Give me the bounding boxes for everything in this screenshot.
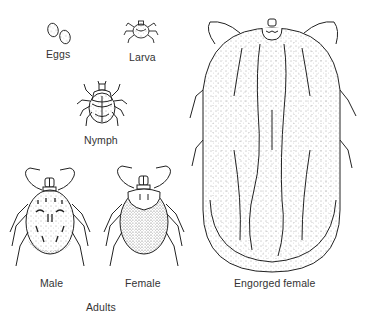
label-adults-group: Adults: [86, 301, 116, 313]
nymph-illustration: [77, 81, 127, 126]
label-larva: Larva: [129, 51, 156, 63]
tick-life-cycle-diagram: Eggs Larva Nymph Male Female Engorged fe…: [0, 0, 373, 315]
label-nymph: Nymph: [84, 134, 118, 146]
label-female: Female: [125, 277, 161, 289]
larva-illustration: [124, 21, 158, 43]
female-tick-illustration: [104, 166, 184, 266]
male-tick-illustration: [10, 168, 90, 266]
label-eggs: Eggs: [46, 48, 70, 60]
label-engorged-female: Engorged female: [234, 277, 315, 289]
eggs-illustration: [46, 22, 71, 44]
egg-icon: [46, 22, 59, 37]
label-male: Male: [40, 277, 63, 289]
egg-icon: [58, 29, 71, 44]
engorged-female-tick-illustration: [190, 19, 356, 272]
